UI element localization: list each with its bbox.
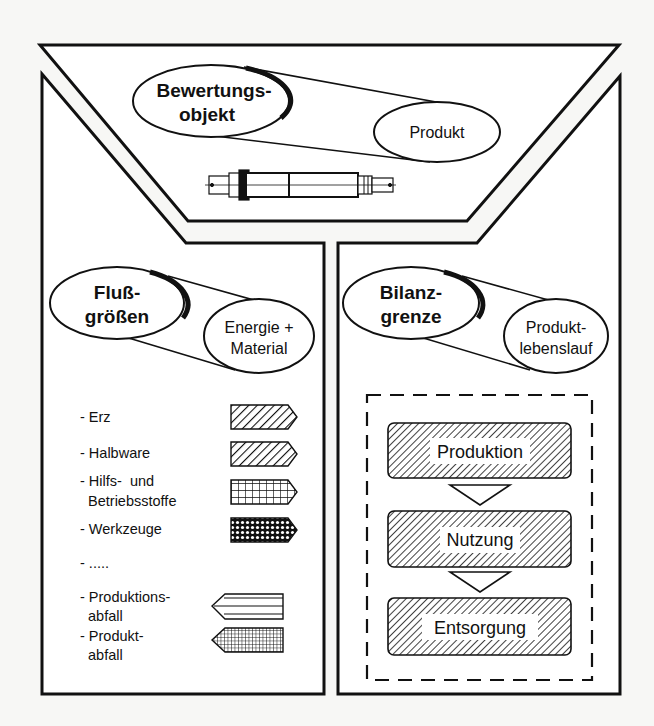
category-label-flow-line2: größen <box>85 306 149 327</box>
value-label-lifecycle-line2: lebenslauf <box>520 340 594 357</box>
arrow-right-diagonal-icon <box>231 442 297 466</box>
arrow-right-crosshatch-icon <box>231 518 297 542</box>
svg-text:Nutzung: Nutzung <box>446 530 513 550</box>
svg-text:abfall: abfall <box>80 608 123 624</box>
svg-text:- Hilfs- und: - Hilfs- und <box>80 473 154 489</box>
svg-text:Entsorgung: Entsorgung <box>434 618 526 638</box>
svg-text:- .....: - ..... <box>80 555 109 571</box>
svg-text:- Produktions-: - Produktions- <box>80 589 170 605</box>
category-label-evaluation-object-line1: Bewertungs- <box>156 80 271 101</box>
svg-text:- Produkt-: - Produkt- <box>80 628 144 644</box>
svg-text:abfall: abfall <box>80 647 123 663</box>
arrow-left-fine-grid-icon <box>212 628 283 652</box>
category-label-boundary-line2: grenze <box>380 306 441 327</box>
svg-text:- Erz: - Erz <box>80 409 111 425</box>
category-label-boundary-line1: Bilanz- <box>380 282 442 303</box>
category-label-flow-line1: Fluß- <box>94 282 140 303</box>
lifecycle-stage-use: Nutzung <box>388 511 571 567</box>
arrow-right-grid-icon <box>231 480 297 504</box>
value-label-product: Produkt <box>409 124 465 141</box>
svg-text:Betriebsstoffe: Betriebsstoffe <box>80 493 176 509</box>
value-label-energy-line1: Energie + <box>225 319 294 336</box>
svg-text:- Werkzeuge: - Werkzeuge <box>80 521 162 537</box>
lifecycle-stage-production: Produktion <box>388 423 571 478</box>
lca-diagram: Bewertungs- objekt Produkt Fluß- größen … <box>0 0 654 726</box>
value-label-lifecycle-line1: Produkt- <box>526 319 586 336</box>
arrow-right-diagonal-icon <box>231 405 297 429</box>
svg-text:- Halbware: - Halbware <box>80 445 150 461</box>
category-label-evaluation-object-line2: objekt <box>179 104 236 125</box>
legend-item-ellipsis: - ..... <box>80 555 109 571</box>
arrow-left-stripes-icon <box>212 594 283 619</box>
svg-text:Produktion: Produktion <box>437 442 523 462</box>
lifecycle-stage-disposal: Entsorgung <box>388 598 571 655</box>
value-label-energy-line2: Material <box>231 340 288 357</box>
